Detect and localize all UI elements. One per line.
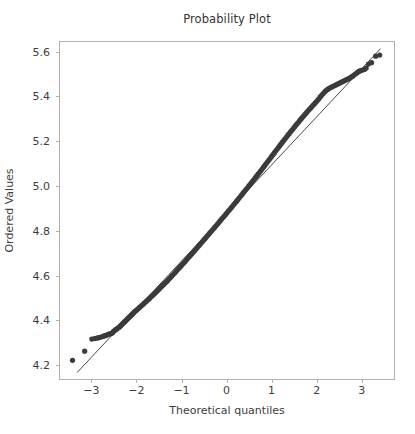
data-points-group xyxy=(70,53,382,363)
y-axis-tick-label: 5.4 xyxy=(33,90,51,103)
x-axis-tick-label: −1 xyxy=(173,384,189,397)
x-axis-tick-label: 3 xyxy=(358,384,365,397)
x-axis-label: Theoretical quantiles xyxy=(59,404,395,417)
data-point xyxy=(82,349,87,354)
y-axis-tick-label: 4.6 xyxy=(33,269,51,282)
x-axis-tick-label: 0 xyxy=(223,384,230,397)
probability-plot-figure: Probability Plot Ordered Values Theoreti… xyxy=(0,0,415,434)
y-axis-tick-label: 5.6 xyxy=(33,45,51,58)
y-axis-label-text: Ordered Values xyxy=(3,168,16,252)
x-axis-tick-label: 1 xyxy=(268,384,275,397)
plot-canvas xyxy=(59,41,395,380)
x-axis-tick-label: −3 xyxy=(83,384,99,397)
x-axis-tick-label: −2 xyxy=(128,384,144,397)
y-axis-tick-label: 5.0 xyxy=(33,179,51,192)
x-axis-tick-label: 2 xyxy=(313,384,320,397)
data-point xyxy=(377,53,382,58)
y-axis-label: Ordered Values xyxy=(0,41,18,380)
y-axis-tick-label: 4.8 xyxy=(33,224,51,237)
plot-axes-area xyxy=(59,41,395,380)
data-point xyxy=(70,358,75,363)
y-axis-tick-label: 4.2 xyxy=(33,359,51,372)
y-axis-tick-label: 5.2 xyxy=(33,135,51,148)
page-title: Probability Plot xyxy=(59,12,395,26)
y-axis-tick-label: 4.4 xyxy=(33,314,51,327)
data-point xyxy=(369,60,374,65)
